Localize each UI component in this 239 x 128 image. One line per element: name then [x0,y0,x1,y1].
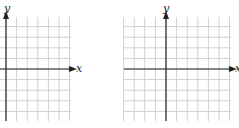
right-x-axis-label: x [235,62,239,75]
left-y-axis-label: y [3,2,11,15]
right-y-axis-label: y [162,2,170,15]
coordinate-graphs: y x y x [0,0,239,128]
right-coordinate-grid [124,11,237,121]
left-x-axis-label: x [76,62,83,75]
left-coordinate-grid [0,11,77,121]
